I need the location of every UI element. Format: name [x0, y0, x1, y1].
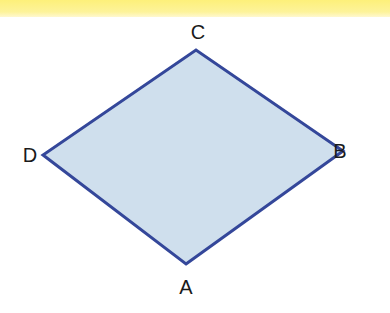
- vertex-label-c: C: [186, 22, 210, 42]
- vertex-label-b: B: [328, 141, 352, 161]
- vertex-label-d: D: [18, 145, 42, 165]
- vertex-label-a: A: [174, 277, 198, 297]
- rhombus-shape: [43, 50, 343, 264]
